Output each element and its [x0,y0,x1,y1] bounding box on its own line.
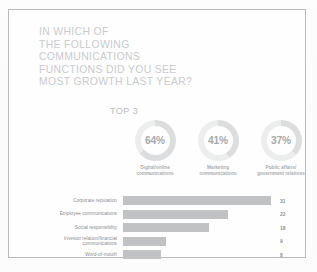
bar-label-line: Corporate reputation [31,198,117,203]
bar-row: Word-of-mouth 8 [31,248,293,261]
donut-label-1: Digital/online communications [136,165,173,176]
donut-label-1-line-2: communications [136,171,173,177]
donut-chart-2: 41% Marketing communications [190,120,246,176]
title-line-4: FUNCTIONS DID YOU SEE [39,64,269,77]
bar-fill-2 [123,210,228,219]
bar-track [123,196,271,205]
bar-track [123,250,271,259]
bar-row: Investor relation/financial communicatio… [31,235,293,248]
bar-value: 9 [271,238,293,244]
title-line-2: THE FOLLOWING [39,39,269,52]
bar-label-line: Social responsibility [31,225,117,230]
bar-label: Employee communications [31,211,123,216]
bar-fill-1 [123,196,271,205]
bar-fill-3 [123,223,209,232]
bar-track [123,237,271,246]
bar-label: Corporate reputation [31,198,123,203]
bar-label: Word-of-mouth [31,252,123,257]
bar-fill-4 [123,237,166,246]
bar-label-line: Word-of-mouth [31,252,117,257]
bar-label-line: Employee communications [31,211,117,216]
donut-ring-wrap-3: 37% [261,120,302,161]
bar-row: Social responsibility 18 [31,221,293,234]
slide-frame: IN WHICH OF THE FOLLOWING COMMUNICATIONS… [8,9,306,258]
donut-label-3-line-2: government relations [257,171,305,177]
donut-ring-wrap-2: 41% [198,120,239,161]
bar-fill-5 [123,250,161,259]
bar-value: 18 [271,225,293,231]
page-title: IN WHICH OF THE FOLLOWING COMMUNICATIONS… [39,26,269,89]
bar-track [123,210,271,219]
donut-label-2-line-2: communications [199,171,236,177]
bar-value: 8 [271,252,293,258]
slide-background: IN WHICH OF THE FOLLOWING COMMUNICATIONS… [0,0,317,272]
donut-ring-wrap-1: 64% [135,120,176,161]
bar-track [123,223,271,232]
title-line-1: IN WHICH OF [39,26,269,39]
bar-label-line: communications [31,241,117,246]
bar-label: Investor relation/financial communicatio… [31,236,123,247]
bar-value: 22 [271,211,293,217]
donut-label-3: Public affairs/ government relations [257,165,305,176]
donut-chart-1: 64% Digital/online communications [127,120,183,176]
title-line-3: COMMUNICATIONS [39,51,269,64]
bar-label: Social responsibility [31,225,123,230]
donut-chart-group: 64% Digital/online communications 41% Ma… [127,120,309,176]
donut-label-1-line-1: Digital/online [136,165,173,171]
bar-value: 31 [271,198,293,204]
donut-percent-1: 64% [135,120,176,161]
bar-row: Corporate reputation 31 [31,194,293,207]
top3-label: TOP 3 [110,106,138,116]
donut-chart-3: 37% Public affairs/ government relations [253,120,309,176]
donut-label-2: Marketing communications [199,165,236,176]
donut-percent-3: 37% [261,120,302,161]
bar-chart: Corporate reputation 31 Employee communi… [31,194,293,262]
title-line-5: MOST GROWTH LAST YEAR? [39,76,269,89]
donut-percent-2: 41% [198,120,239,161]
bar-row: Employee communications 22 [31,208,293,221]
